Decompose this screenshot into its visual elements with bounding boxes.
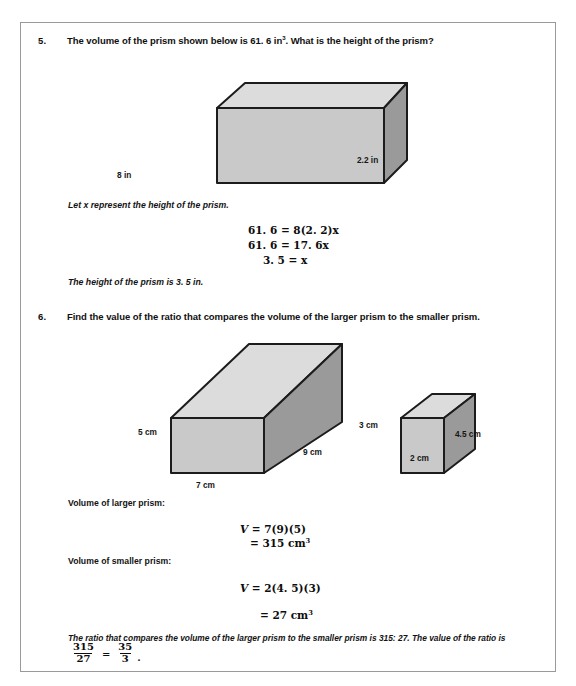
volume-larger-equation-line-2: = 315 cm3 — [250, 537, 310, 549]
ratio-fraction-equation: 315 27 = 35 3 . — [68, 642, 141, 664]
ratio-right-numerator: 35 — [116, 642, 134, 653]
question-5-prompt: The volume of the prism shown below is 6… — [67, 35, 434, 46]
ratio-left-denominator: 27 — [74, 653, 92, 665]
smaller-prism-width-label: 2 cm — [410, 453, 429, 463]
prism-top-face — [217, 83, 407, 108]
volume-larger-prism-label: Volume of larger prism: — [68, 498, 165, 508]
question-5-prompt-part2: . What is the height of the prism? — [285, 35, 433, 46]
smaller-prism-height-label: 3 cm — [359, 420, 378, 430]
question-5-prompt-part1: The volume of the prism shown below is 6… — [67, 35, 282, 46]
ratio-trailing-period: . — [137, 652, 140, 664]
prism-front-face — [217, 108, 384, 183]
volume-smaller-result-exponent: 3 — [308, 609, 313, 617]
ratio-equals-sign: = — [102, 648, 110, 659]
question-5-work-intro: Let x represent the height of the prism. — [68, 200, 229, 210]
ratio-left-numerator: 315 — [71, 642, 96, 653]
question-5-equation-3: 3. 5 = x — [263, 254, 307, 266]
larger-prism-width-label: 7 cm — [196, 480, 215, 490]
volume-smaller-equation-line-1: V = 2(4. 5)(3) — [240, 582, 321, 594]
question-5-equation-1: 61. 6 = 8(2. 2)x — [248, 224, 339, 236]
worksheet-page: 5. The volume of the prism shown below i… — [20, 22, 556, 672]
smaller-prism-front-face — [401, 418, 444, 473]
rectangular-prism-question-5 — [193, 56, 418, 191]
smaller-prism-depth-label: 4.5 cm — [455, 429, 481, 439]
question-6-number: 6. — [38, 311, 46, 322]
prism-q5-depth-label: 2.2 in — [357, 155, 378, 165]
larger-prism-question-6 — [146, 328, 356, 488]
larger-prism-depth-label: 9 cm — [303, 447, 322, 457]
question-6-prompt: Find the value of the ratio that compare… — [67, 311, 480, 322]
larger-prism-front-face — [171, 418, 264, 473]
ratio-fraction-right: 35 3 — [116, 642, 134, 664]
volume-smaller-equation-line-2: = 27 cm3 — [260, 609, 313, 621]
ratio-fraction-left: 315 27 — [71, 642, 96, 664]
volume-larger-result-exponent: 3 — [306, 537, 311, 545]
prism-q5-bottom-label: 8 in — [117, 170, 131, 180]
larger-prism-height-label: 5 cm — [138, 427, 157, 437]
volume-larger-equation-line-1: V = 7(9)(5) — [240, 523, 306, 535]
question-5-equation-2: 61. 6 = 17. 6x — [248, 239, 329, 251]
volume-smaller-prism-label: Volume of smaller prism: — [68, 556, 171, 566]
volume-smaller-result: = 27 cm — [260, 609, 308, 621]
question-5-conclusion: The height of the prism is 3. 5 in. — [68, 277, 203, 287]
smaller-prism-question-6 — [376, 375, 506, 495]
volume-larger-result: = 315 cm — [250, 537, 306, 549]
ratio-right-denominator: 3 — [120, 653, 131, 665]
question-5-number: 5. — [38, 35, 46, 46]
